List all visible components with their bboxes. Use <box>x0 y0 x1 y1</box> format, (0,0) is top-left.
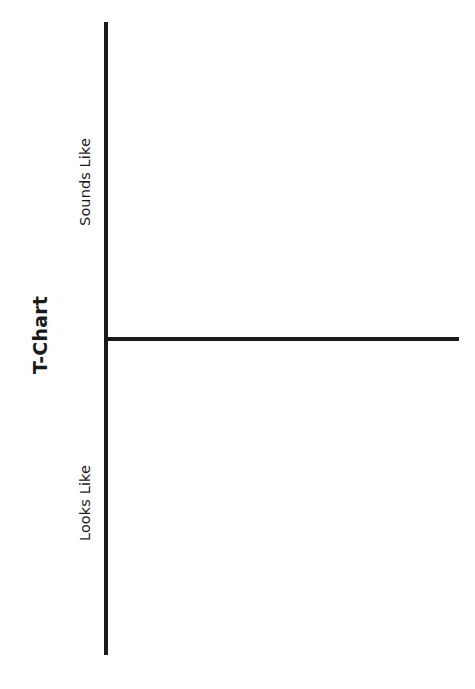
page-title: T-Chart <box>31 296 50 374</box>
t-chart-worksheet: T-Chart Sounds Like Looks Like <box>0 0 475 689</box>
section-label-looks-like: Looks Like <box>78 465 93 541</box>
section-area-looks-like[interactable] <box>109 341 459 655</box>
section-area-sounds-like[interactable] <box>109 22 459 337</box>
section-label-sounds-like: Sounds Like <box>78 138 93 226</box>
